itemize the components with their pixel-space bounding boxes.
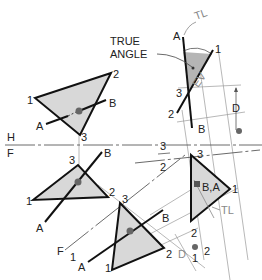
aux3-vertex-2: 2 (168, 108, 174, 120)
top-view: 1 2 3 A B (27, 68, 119, 143)
aux1-dimension-d: D (178, 248, 186, 260)
auxiliary-view-2: 3 1 2 B,A TL 1 2 (191, 148, 238, 264)
fold-label-3: 3 (160, 140, 166, 152)
aux1-line-end-a: A (78, 261, 86, 273)
aux3-dimension-d: D (232, 102, 240, 114)
aux3-line-end-b: B (198, 123, 205, 135)
top-view-plane (35, 73, 111, 135)
dihedral-angle-diagram: 1 2 3 A B H F 3 2 1 B A F 1 3 1 2 A B D … (0, 0, 262, 280)
auxiliary-view-1: 3 1 2 A B D (78, 193, 186, 274)
front-line-end-b: B (104, 147, 111, 159)
fold-32-tick (158, 153, 170, 154)
aux2-dim-point (192, 244, 198, 250)
true-angle-label-line1: TRUE (110, 35, 140, 47)
aux1-line-end-b: B (162, 212, 169, 224)
fold-label-f: F (7, 147, 14, 159)
aux3-vertex-1: 1 (215, 43, 221, 55)
top-vertex-2: 2 (113, 68, 119, 80)
true-angle-label-line2: ANGLE (110, 48, 147, 60)
front-vertex-2: 2 (109, 186, 115, 198)
fold-label-h: H (7, 131, 15, 143)
aux2-vertex-3: 3 (197, 148, 203, 160)
aux1-vertex-2: 2 (166, 248, 172, 260)
piercing-point-front (75, 179, 82, 186)
point-view-ba (194, 181, 200, 187)
front-vertex-1: 1 (26, 195, 32, 207)
aux2-label-2: 2 (204, 245, 210, 257)
fold-label-2: 2 (160, 161, 166, 173)
aux2-vertex-2: 2 (191, 227, 197, 239)
aux2-label-1: 1 (192, 252, 198, 264)
top-vertex-3: 3 (81, 131, 87, 143)
front-line-end-a: A (36, 222, 44, 234)
front-vertex-3: 3 (69, 154, 75, 166)
aux2-vertex-1: 1 (232, 183, 238, 195)
aux2-label-ba: B,A (202, 181, 220, 193)
auxiliary-view-3: A B 1 3 2 EV TL D (168, 6, 242, 135)
aux2-label-tl: TL (221, 204, 234, 216)
aux1-vertex-1: 1 (105, 262, 111, 274)
fold-label-1: 1 (70, 251, 76, 263)
aux1-plane (112, 203, 164, 270)
top-vertex-1: 1 (27, 94, 33, 106)
fold-label-f-aux: F (57, 245, 64, 257)
aux3-line-end-a: A (173, 30, 181, 42)
aux3-label-tl: TL (193, 6, 209, 22)
piercing-point-aux1 (127, 228, 134, 235)
top-line-end-a: A (36, 120, 44, 132)
aux3-vertex-3: 3 (176, 87, 182, 99)
top-line-end-b: B (109, 97, 116, 109)
aux3-dim-point (236, 128, 242, 134)
aux1-vertex-3: 3 (122, 193, 128, 205)
front-view-plane (33, 165, 108, 200)
piercing-point-top (76, 108, 83, 115)
